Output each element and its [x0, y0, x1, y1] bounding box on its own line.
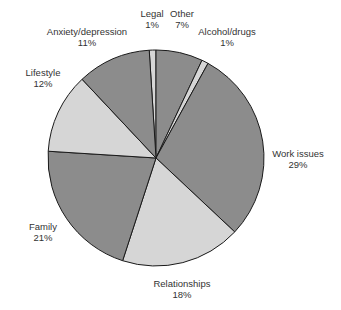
slice-label-value: 18% [153, 289, 210, 300]
slice-label-name: Alcohol/drugs [198, 26, 256, 37]
slice-label-name: Work issues [272, 148, 324, 159]
slice-label: Other7% [170, 8, 194, 30]
slice-label-value: 7% [170, 19, 194, 30]
slice-label-name: Anxiety/depression [47, 26, 127, 37]
slice-label: Family21% [29, 221, 57, 243]
slice-label-name: Lifestyle [26, 67, 61, 78]
slice-label: Work issues29% [272, 148, 324, 170]
slice-label: Alcohol/drugs1% [198, 26, 256, 48]
slice-label-name: Relationships [153, 278, 210, 289]
slice-label-value: 12% [26, 78, 61, 89]
slice-label-name: Other [170, 8, 194, 19]
slice-label-name: Family [29, 221, 57, 232]
slice-label: Relationships18% [153, 278, 210, 300]
slice-label-name: Legal [140, 8, 163, 19]
slice-label: Legal1% [140, 8, 163, 30]
slice-label: Anxiety/depression11% [47, 26, 127, 48]
slice-label-value: 1% [198, 37, 256, 48]
slice-label: Lifestyle12% [26, 67, 61, 89]
slice-label-value: 1% [140, 19, 163, 30]
slice-label-value: 21% [29, 232, 57, 243]
slice-label-value: 29% [272, 159, 324, 170]
slice-label-value: 11% [47, 37, 127, 48]
